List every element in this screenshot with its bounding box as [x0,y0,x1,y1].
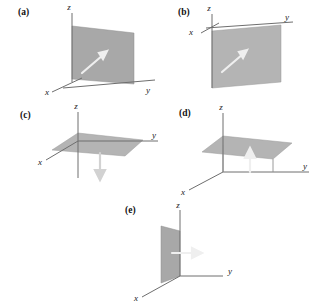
panel-a-label: (a) [18,7,29,17]
panel-d-y-label: y [302,161,307,171]
panel-b-z-label: z [206,3,211,13]
panel-e: (e) z y x [80,200,243,306]
figure-canvas: (a) z y x (b) z y x [0,0,323,306]
panel-a-y-label: y [145,85,150,95]
panel-d-x-axis [189,172,223,190]
panel-a: (a) z y x [0,0,162,100]
panel-c-plane [52,133,143,156]
panel-a-z-label: z [66,2,71,12]
panel-b-y-label: y [284,12,289,22]
panel-b: (b) z y x [161,0,323,100]
panel-d-x-label: x [180,187,185,197]
panel-d-z-label: z [218,102,223,112]
panel-e-diagram: z y x [80,200,243,306]
panel-e-x-label: x [133,293,138,303]
panel-d: (d) z y x [161,100,323,200]
panel-c-z-label: z [73,101,78,111]
panel-b-label: (b) [178,7,190,17]
panel-a-x-axis [52,78,82,92]
panel-c-x-label: x [37,157,42,167]
panel-e-y-label: y [227,266,232,276]
panel-e-plane [161,226,180,283]
panel-d-label: (d) [179,108,191,118]
panel-b-x-label: x [188,27,193,37]
panel-c-y-label: y [151,130,156,140]
panel-c: (c) z y x [0,100,162,200]
panel-e-label: (e) [125,205,136,215]
panel-c-arrow [95,153,105,180]
panel-c-label: (c) [20,110,31,120]
panel-e-z-label: z [175,200,180,210]
panel-b-plane [212,25,281,88]
panel-a-x-label: x [44,87,49,97]
